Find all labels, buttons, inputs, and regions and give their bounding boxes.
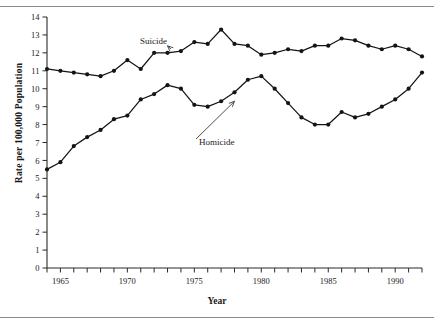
data-point-suicide	[299, 49, 303, 53]
data-point-homicide	[139, 97, 143, 101]
data-point-suicide	[380, 47, 384, 51]
data-point-homicide	[206, 105, 210, 109]
data-point-suicide	[72, 70, 76, 74]
data-point-suicide	[192, 40, 196, 44]
data-point-homicide	[326, 122, 330, 126]
data-point-homicide	[219, 99, 223, 103]
y-tick-label: 10	[31, 84, 40, 94]
data-point-suicide	[98, 74, 102, 78]
y-axis-title: Rate per 100,000 Population	[14, 48, 24, 198]
data-point-suicide	[45, 67, 49, 71]
x-tick-label: 1985	[320, 276, 337, 286]
data-point-homicide	[125, 114, 129, 118]
divider-bottom	[0, 317, 434, 318]
y-tick-label: 1	[35, 245, 39, 255]
data-point-homicide	[72, 144, 76, 148]
chart-axes	[47, 17, 422, 268]
data-point-homicide	[246, 78, 250, 82]
y-tick-label: 13	[31, 30, 40, 40]
data-point-suicide	[366, 44, 370, 48]
data-point-suicide	[179, 49, 183, 53]
data-point-homicide	[85, 135, 89, 139]
series-line-suicide	[47, 30, 422, 77]
data-point-homicide	[407, 87, 411, 91]
data-point-suicide	[206, 42, 210, 46]
data-point-suicide	[58, 69, 62, 73]
data-point-suicide	[246, 44, 250, 48]
x-tick-label: 1980	[253, 276, 270, 286]
data-point-homicide	[313, 122, 317, 126]
y-tick-label: 4	[35, 191, 40, 201]
data-point-homicide	[420, 70, 424, 74]
data-point-homicide	[353, 115, 357, 119]
data-point-suicide	[420, 54, 424, 58]
data-point-suicide	[165, 51, 169, 55]
data-point-suicide	[286, 47, 290, 51]
data-point-suicide	[139, 67, 143, 71]
annotation-leader-line	[196, 101, 235, 139]
data-point-homicide	[366, 112, 370, 116]
y-tick-label: 9	[35, 102, 39, 112]
y-tick-label: 14	[31, 12, 40, 22]
data-point-homicide	[340, 110, 344, 114]
data-point-suicide	[85, 72, 89, 76]
y-tick-label: 8	[35, 120, 39, 130]
data-point-suicide	[393, 44, 397, 48]
data-point-homicide	[45, 167, 49, 171]
data-point-suicide	[219, 27, 223, 31]
data-point-homicide	[58, 160, 62, 164]
chart-plot-area: 0123456789101112131419651970197519801985…	[0, 8, 434, 308]
data-point-homicide	[192, 103, 196, 107]
x-tick-label: 1965	[52, 276, 69, 286]
data-point-homicide	[259, 74, 263, 78]
data-point-homicide	[165, 83, 169, 87]
data-point-suicide	[273, 51, 277, 55]
y-tick-label: 2	[35, 227, 39, 237]
data-point-suicide	[125, 58, 129, 62]
series-line-homicide	[47, 73, 422, 170]
y-tick-label: 3	[35, 209, 39, 219]
data-point-homicide	[299, 115, 303, 119]
data-point-homicide	[380, 105, 384, 109]
x-axis-title: Year	[0, 296, 434, 306]
x-tick-label: 1990	[387, 276, 404, 286]
data-point-homicide	[112, 117, 116, 121]
data-point-homicide	[98, 128, 102, 132]
data-point-suicide	[152, 51, 156, 55]
data-point-suicide	[353, 38, 357, 42]
y-tick-label: 12	[31, 48, 40, 58]
data-point-suicide	[407, 47, 411, 51]
x-tick-label: 1975	[186, 276, 203, 286]
data-point-suicide	[326, 44, 330, 48]
line-chart: 0123456789101112131419651970197519801985…	[0, 8, 434, 308]
data-point-suicide	[313, 44, 317, 48]
data-point-suicide	[112, 69, 116, 73]
annotation-label-suicide: Suicide	[140, 36, 167, 46]
data-point-suicide	[232, 42, 236, 46]
divider-top	[0, 6, 434, 7]
y-tick-label: 0	[35, 263, 39, 273]
annotation-label-homicide: Homicide	[199, 137, 235, 147]
y-tick-label: 11	[31, 66, 39, 76]
data-point-suicide	[259, 53, 263, 57]
y-tick-label: 6	[35, 156, 39, 166]
data-point-suicide	[340, 36, 344, 40]
y-tick-label: 7	[35, 138, 39, 148]
data-point-homicide	[232, 90, 236, 94]
data-point-homicide	[179, 87, 183, 91]
data-point-homicide	[286, 101, 290, 105]
data-point-homicide	[393, 97, 397, 101]
data-point-homicide	[152, 92, 156, 96]
x-tick-label: 1970	[119, 276, 136, 286]
y-tick-label: 5	[35, 173, 39, 183]
data-point-homicide	[273, 87, 277, 91]
